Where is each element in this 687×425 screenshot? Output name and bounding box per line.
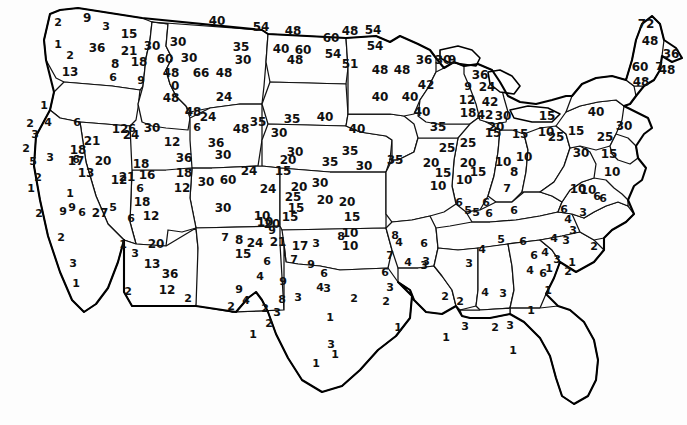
- us-map-figure: 2931512362181361893030603048664804824405…: [0, 0, 687, 425]
- state-boundary-group: [34, 8, 664, 404]
- us-map-outlines: [0, 0, 687, 425]
